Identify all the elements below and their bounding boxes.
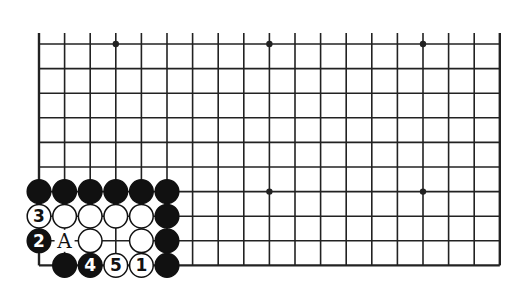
stone-circle [155, 254, 179, 278]
star-point [113, 41, 119, 47]
black-stone [155, 229, 179, 253]
move-number-label: 1 [135, 255, 147, 275]
stone-circle [53, 180, 77, 204]
stone-circle [53, 204, 77, 228]
stone-circle [155, 229, 179, 253]
black-stone [53, 254, 77, 278]
black-stone [155, 254, 179, 278]
black-stone [53, 180, 77, 204]
black-stone [155, 204, 179, 228]
stone-circle [27, 180, 51, 204]
white-stone [78, 229, 102, 253]
stone-circle [130, 180, 154, 204]
black-stone [155, 180, 179, 204]
move-number-label: 2 [33, 231, 45, 251]
stone-circle [78, 229, 102, 253]
star-point [266, 41, 272, 47]
black-stone [27, 180, 51, 204]
stone-circle [104, 180, 128, 204]
star-point [420, 188, 426, 194]
star-point [266, 188, 272, 194]
go-board: 32451A [0, 0, 526, 303]
white-stone [104, 204, 128, 228]
black-stone [104, 180, 128, 204]
point-marker-label: A [56, 229, 72, 253]
grid-lines [39, 33, 500, 265]
stone-circle [155, 204, 179, 228]
move-number-label: 5 [110, 255, 122, 275]
white-stone: 3 [27, 204, 51, 228]
stone-circle [78, 180, 102, 204]
white-stone [53, 204, 77, 228]
black-stone [78, 180, 102, 204]
white-stone [78, 204, 102, 228]
stone-circle [130, 229, 154, 253]
black-stone: 2 [27, 229, 51, 253]
white-stone [130, 229, 154, 253]
black-stone: 4 [78, 254, 102, 278]
white-stone [130, 204, 154, 228]
stone-circle [78, 204, 102, 228]
white-stone: 5 [104, 254, 128, 278]
move-number-label: 4 [84, 255, 96, 275]
stone-circle [155, 180, 179, 204]
stone-circle [53, 254, 77, 278]
stone-circle [104, 204, 128, 228]
white-stone: 1 [130, 254, 154, 278]
stone-circle [130, 204, 154, 228]
star-point [420, 41, 426, 47]
black-stone [130, 180, 154, 204]
move-number-label: 3 [33, 206, 45, 226]
